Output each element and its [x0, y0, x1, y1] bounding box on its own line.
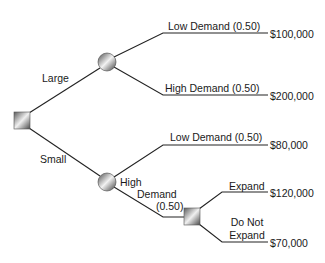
decision-node-expand: [184, 208, 200, 225]
decision-node-root: [14, 112, 30, 129]
branch-label-small: Small: [40, 153, 66, 165]
outcome-label-small-high-line1: High: [120, 176, 142, 188]
payoff-expand: $120,000: [270, 187, 314, 199]
outcome-label-small-low: Low Demand (0.50): [170, 131, 262, 143]
outcome-label-small-high-line2: Demand: [137, 188, 177, 200]
payoff-large-high: $200,000: [270, 90, 314, 102]
option-label-do-not-expand-line2: Expand: [227, 229, 267, 241]
payoff-large-low: $100,000: [270, 28, 314, 40]
branch-label-large: Large: [42, 72, 69, 84]
outcome-label-large-high: High Demand (0.50): [165, 82, 260, 94]
outcome-label-small-high-line3: (0.50): [156, 200, 183, 212]
option-label-expand: Expand: [229, 180, 265, 192]
option-label-do-not-expand-line1: Do Not: [227, 216, 267, 228]
payoff-do-not-expand: $70,000: [270, 237, 308, 249]
payoff-small-low: $80,000: [270, 139, 308, 151]
outcome-label-large-low: Low Demand (0.50): [168, 20, 260, 32]
chance-node-small: [98, 173, 116, 191]
chance-node-large: [98, 53, 116, 71]
